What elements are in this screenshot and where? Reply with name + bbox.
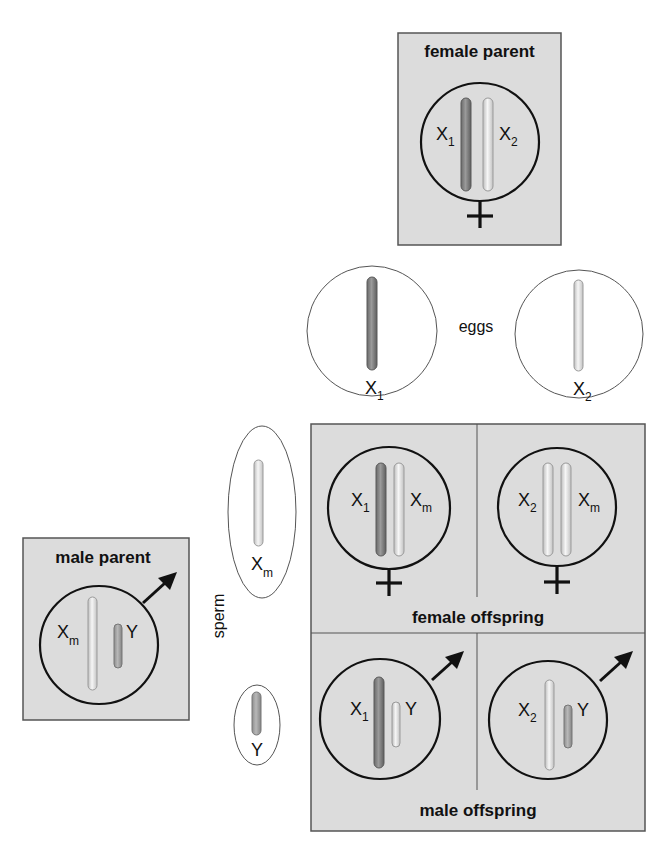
female-parent-panel: female parent X1 X2 (398, 33, 561, 245)
x-linked-inheritance-diagram: female parent X1 X2 X1 eggs X2 male pare… (0, 0, 661, 845)
male-parent-panel: male parent Xm Y (23, 538, 189, 720)
sperm-group: Xm sperm Y (210, 426, 296, 765)
chromosome-x1 (376, 463, 386, 556)
sperm-y: Y (234, 685, 280, 765)
sperm-y-label: Y (251, 740, 263, 760)
female-parent-label: female parent (424, 42, 535, 61)
male-offspring-2-chrom-b-label: Y (577, 700, 589, 720)
punnett-grid-box (311, 424, 645, 831)
chromosome-xm (88, 597, 97, 690)
male-offspring-1-chrom-b-label: Y (405, 699, 417, 719)
chromosome-y (392, 702, 400, 747)
chromosome-x2 (483, 98, 493, 191)
egg-x1: X1 (307, 266, 437, 403)
chromosome-x2 (574, 280, 583, 371)
chromosome-x1 (461, 98, 471, 191)
sperm-label: sperm (210, 594, 227, 638)
chromosome-y (564, 705, 572, 748)
sperm-xm: Xm (228, 426, 296, 598)
male-parent-chrom-b-label: Y (126, 622, 138, 642)
chromosome-x1 (374, 677, 384, 768)
chromosome-x2 (543, 463, 553, 556)
chromosome-y (114, 624, 122, 668)
offspring-punnett-grid: X1 Xm X2 Xm female offspring X1 (311, 424, 645, 831)
chromosome-x2 (545, 680, 554, 770)
egg-x2: X2 (515, 270, 643, 404)
male-offspring-label: male offspring (419, 801, 536, 820)
chromosome-xm (394, 463, 404, 556)
eggs-group: X1 eggs X2 (307, 266, 643, 404)
eggs-label: eggs (459, 318, 494, 335)
chromosome-y (252, 692, 261, 735)
chromosome-x1 (367, 277, 377, 370)
chromosome-xm (254, 460, 263, 546)
female-offspring-label: female offspring (412, 608, 544, 627)
chromosome-xm (561, 463, 571, 556)
male-parent-label: male parent (55, 548, 151, 567)
